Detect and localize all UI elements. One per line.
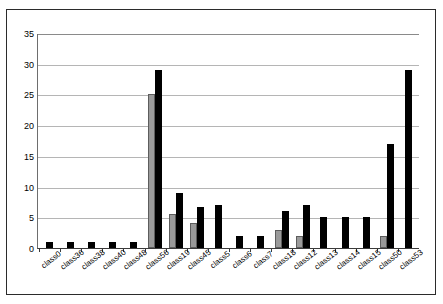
ytick-label-15: 15 bbox=[24, 152, 34, 161]
bar-group bbox=[145, 34, 166, 248]
bar-group bbox=[229, 34, 250, 248]
x-label-slot: class18 bbox=[271, 251, 292, 299]
bar-group bbox=[335, 34, 356, 248]
bar-series-a[interactable] bbox=[190, 223, 197, 248]
bar-group bbox=[208, 34, 229, 248]
bar-series-b[interactable] bbox=[405, 70, 412, 248]
bar-series-b[interactable] bbox=[303, 205, 310, 248]
ytick-label-10: 10 bbox=[24, 183, 34, 192]
bar-group bbox=[292, 34, 313, 248]
ytick-label-30: 30 bbox=[24, 60, 34, 69]
bar-group bbox=[187, 34, 208, 248]
bar-series-b[interactable] bbox=[88, 242, 95, 248]
bar-series-b[interactable] bbox=[109, 242, 116, 248]
bar-series-b[interactable] bbox=[257, 236, 264, 248]
ytick-label-25: 25 bbox=[24, 91, 34, 100]
x-label-slot: class36 bbox=[59, 251, 80, 299]
bar-series-b[interactable] bbox=[215, 205, 222, 248]
bar-series-b[interactable] bbox=[197, 207, 204, 248]
bar-series-a[interactable] bbox=[380, 236, 387, 248]
bar-group bbox=[102, 34, 123, 248]
bar-group bbox=[398, 34, 419, 248]
bar-series-a[interactable] bbox=[148, 94, 155, 248]
x-axis-label: class53 bbox=[399, 249, 425, 272]
bar-group bbox=[166, 34, 187, 248]
bar-series-b[interactable] bbox=[342, 217, 349, 248]
bar-series-b[interactable] bbox=[46, 242, 53, 248]
bar-group bbox=[81, 34, 102, 248]
x-label-slot: class45 bbox=[187, 251, 208, 299]
bar-series-b[interactable] bbox=[176, 193, 183, 248]
x-label-slot: class40 bbox=[102, 251, 123, 299]
x-label-slot: class48 bbox=[123, 251, 144, 299]
bar-group bbox=[313, 34, 334, 248]
bar-series-b[interactable] bbox=[67, 242, 74, 248]
x-label-slot: class53 bbox=[399, 251, 420, 299]
x-label-slot: class7 bbox=[250, 251, 271, 299]
bar-series-container bbox=[39, 34, 419, 248]
x-label-slot: class13 bbox=[314, 251, 335, 299]
bar-series-b[interactable] bbox=[155, 70, 162, 248]
bar-series-a[interactable] bbox=[275, 230, 282, 248]
bar-series-b[interactable] bbox=[363, 217, 370, 248]
bar-series-a[interactable] bbox=[169, 214, 176, 248]
x-label-slot: class19 bbox=[165, 251, 186, 299]
bar-group bbox=[356, 34, 377, 248]
x-label-slot: class5 bbox=[208, 251, 229, 299]
bar-group bbox=[271, 34, 292, 248]
bar-series-b[interactable] bbox=[320, 217, 327, 248]
x-label-slot: class12 bbox=[293, 251, 314, 299]
x-axis-labels: class0class36class38class40class48class5… bbox=[38, 251, 420, 299]
chart-frame: 35 30 25 20 15 10 5 0 class0class36class… bbox=[6, 9, 436, 295]
x-label-slot: class38 bbox=[80, 251, 101, 299]
x-label-slot: class15 bbox=[356, 251, 377, 299]
ytick-label-0: 0 bbox=[29, 245, 34, 254]
bar-group bbox=[60, 34, 81, 248]
bar-group bbox=[123, 34, 144, 248]
bar-series-b[interactable] bbox=[282, 211, 289, 248]
plot-area: 35 30 25 20 15 10 5 0 bbox=[37, 34, 419, 249]
ytick-label-5: 5 bbox=[29, 214, 34, 223]
x-label-slot: class56 bbox=[144, 251, 165, 299]
bar-group bbox=[250, 34, 271, 248]
x-label-slot: class50 bbox=[378, 251, 399, 299]
ytick-label-20: 20 bbox=[24, 122, 34, 131]
x-label-slot: class0 bbox=[38, 251, 59, 299]
x-label-slot: class6 bbox=[229, 251, 250, 299]
bar-series-a[interactable] bbox=[296, 236, 303, 248]
ytick-label-35: 35 bbox=[24, 30, 34, 39]
bar-group bbox=[377, 34, 398, 248]
bar-series-b[interactable] bbox=[130, 242, 137, 248]
x-label-slot: class14 bbox=[335, 251, 356, 299]
bar-series-b[interactable] bbox=[387, 144, 394, 248]
bar-group bbox=[39, 34, 60, 248]
bar-series-b[interactable] bbox=[236, 236, 243, 248]
